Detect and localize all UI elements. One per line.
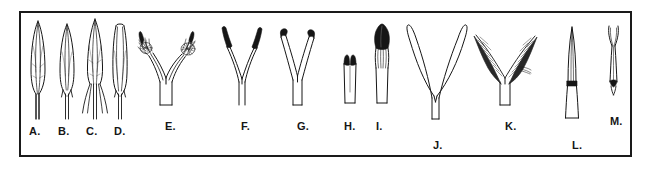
specimen-g <box>270 24 326 106</box>
specimen-k <box>468 24 544 106</box>
specimen-h <box>340 52 360 104</box>
specimen-j <box>404 20 468 120</box>
specimen-i <box>370 22 394 104</box>
specimen-m <box>604 24 624 96</box>
specimen-b <box>55 22 79 120</box>
specimen-c <box>81 18 109 120</box>
figure-plate: A. B. C. D. E. F. G. H. I. J. K. L. M. <box>0 0 651 170</box>
specimen-e <box>133 20 199 106</box>
specimen-a <box>26 20 50 120</box>
specimen-d <box>108 21 132 120</box>
specimen-l <box>563 24 585 120</box>
specimen-f <box>216 22 268 106</box>
